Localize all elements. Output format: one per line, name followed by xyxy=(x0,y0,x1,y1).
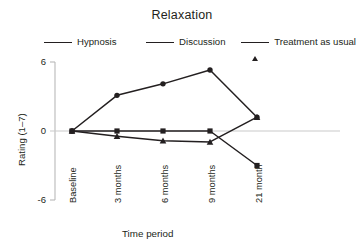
series-layer xyxy=(69,67,261,168)
data-point xyxy=(207,67,212,72)
chart-figure: Relaxation Hypnosis Discussion Treatment… xyxy=(0,0,364,247)
data-point xyxy=(114,128,119,133)
x-tick-label-21-month: 21 month xyxy=(254,164,264,203)
series-hypnosis xyxy=(69,67,259,133)
x-tick-label-6-months: 6 months xyxy=(160,165,170,203)
y-tick-label-6: 6 xyxy=(22,56,46,67)
series-line xyxy=(72,70,257,131)
x-tick-label-3-months: 3 months xyxy=(113,165,123,203)
data-point xyxy=(160,81,165,86)
data-point xyxy=(160,128,165,133)
x-axis-title: Time period xyxy=(122,228,173,239)
data-point xyxy=(114,93,119,98)
x-tick-label-baseline: Baseline xyxy=(68,167,78,203)
chart-canvas xyxy=(0,0,364,247)
y-axis-title: Rating (1–7) xyxy=(16,113,27,166)
y-tick-label-minus-6: -6 xyxy=(22,194,46,205)
plot-area: 6 0 -6 Rating (1–7) Baseline 3 months 6 … xyxy=(0,0,364,247)
x-tick-label-9-months: 9 months xyxy=(207,165,217,203)
data-point xyxy=(207,128,212,133)
series-line xyxy=(72,131,257,166)
